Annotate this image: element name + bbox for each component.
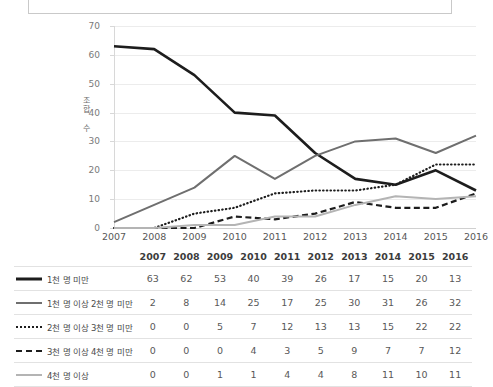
table-cell: 4 <box>237 345 271 356</box>
column-header: 2016 <box>438 251 472 262</box>
legend-label: 1천 명 미만 <box>47 273 88 285</box>
table-cell: 13 <box>438 273 472 284</box>
table-cell: 20 <box>405 273 439 284</box>
table-cell: 12 <box>438 345 472 356</box>
x-tick-label: 2011 <box>255 231 295 242</box>
table-cell: 11 <box>438 369 472 380</box>
table-cell: 30 <box>338 297 372 308</box>
column-header: 2011 <box>270 251 304 262</box>
table-row: 4천 명 이상0011448111011 <box>14 362 472 387</box>
legend-line-icon <box>16 370 42 380</box>
table-cell: 62 <box>170 273 204 284</box>
line-chart: 조합 수 010203040506070 <box>0 0 485 240</box>
legend-item: 1천 명 이상 2천 명 미만 <box>14 297 136 309</box>
x-tick-label: 2014 <box>376 231 416 242</box>
legend-label: 3천 명 이상 4천 명 미만 <box>47 345 132 357</box>
x-tick-label: 2010 <box>215 231 255 242</box>
table-cell: 7 <box>405 345 439 356</box>
legend-label: 2천 명 이상 3천 명 미만 <box>47 321 132 333</box>
table-cell: 5 <box>203 321 237 332</box>
x-axis-labels: 2007200820092010201120122013201420152016 <box>0 231 485 247</box>
table-cell: 17 <box>338 273 372 284</box>
table-cell: 15 <box>371 321 405 332</box>
x-tick-label: 2008 <box>134 231 174 242</box>
table-header-row: 2007200820092010201120122013201420152016 <box>14 247 472 266</box>
legend-label: 1천 명 이상 2천 명 미만 <box>47 297 132 309</box>
data-table: 2007200820092010201120122013201420152016… <box>14 247 472 387</box>
table-cell: 12 <box>270 321 304 332</box>
table-cell: 8 <box>170 297 204 308</box>
table-cell: 8 <box>338 369 372 380</box>
table-cell: 22 <box>405 321 439 332</box>
legend-item: 1천 명 미만 <box>14 273 136 285</box>
table-row: 2천 명 이상 3천 명 미만0057121313152222 <box>14 314 472 338</box>
table-cell: 1 <box>237 369 271 380</box>
table-row: 1천 명 이상 2천 명 미만281425172530312632 <box>14 290 472 314</box>
table-cell: 14 <box>203 297 237 308</box>
column-header: 2007 <box>136 251 170 262</box>
legend-line-icon <box>16 346 42 356</box>
table-cell: 2 <box>136 297 170 308</box>
table-cell: 5 <box>304 345 338 356</box>
x-tick-label: 2012 <box>295 231 335 242</box>
legend-label: 4천 명 이상 <box>47 369 88 381</box>
column-header: 2015 <box>405 251 439 262</box>
legend-item: 4천 명 이상 <box>14 369 136 381</box>
table-cell: 15 <box>371 273 405 284</box>
table-cell: 0 <box>136 369 170 380</box>
table-cell: 25 <box>304 297 338 308</box>
series-line <box>114 136 476 223</box>
table-cell: 11 <box>371 369 405 380</box>
table-cell: 26 <box>304 273 338 284</box>
table-cell: 4 <box>270 369 304 380</box>
table-cell: 13 <box>338 321 372 332</box>
x-tick-label: 2016 <box>456 231 493 242</box>
table-cell: 9 <box>338 345 372 356</box>
table-cell: 4 <box>304 369 338 380</box>
table-cell: 25 <box>237 297 271 308</box>
table-cell: 7 <box>237 321 271 332</box>
table-cell: 39 <box>270 273 304 284</box>
table-cell: 0 <box>170 345 204 356</box>
table-cell: 0 <box>136 321 170 332</box>
table-cell: 13 <box>304 321 338 332</box>
table-cell: 7 <box>371 345 405 356</box>
column-header: 2009 <box>203 251 237 262</box>
column-header: 2008 <box>170 251 204 262</box>
column-header: 2012 <box>304 251 338 262</box>
legend-line-icon <box>16 322 42 332</box>
x-tick-label: 2013 <box>335 231 375 242</box>
x-tick-label: 2015 <box>416 231 456 242</box>
table-cell: 32 <box>438 297 472 308</box>
legend-line-icon <box>16 274 42 284</box>
table-cell: 3 <box>270 345 304 356</box>
table-cell: 0 <box>170 321 204 332</box>
table-cell: 40 <box>237 273 271 284</box>
table-cell: 0 <box>136 345 170 356</box>
column-header: 2014 <box>371 251 405 262</box>
legend-item: 2천 명 이상 3천 명 미만 <box>14 321 136 333</box>
table-cell: 1 <box>203 369 237 380</box>
x-tick-label: 2007 <box>94 231 134 242</box>
table-cell: 31 <box>371 297 405 308</box>
legend-item: 3천 명 이상 4천 명 미만 <box>14 345 136 357</box>
table-cell: 10 <box>405 369 439 380</box>
legend-line-icon <box>16 298 42 308</box>
column-header: 2013 <box>338 251 372 262</box>
table-cell: 0 <box>170 369 204 380</box>
table-cell: 17 <box>270 297 304 308</box>
x-tick-label: 2009 <box>174 231 214 242</box>
table-cell: 63 <box>136 273 170 284</box>
series-lines <box>0 0 485 240</box>
table-row: 1천 명 미만63625340392617152013 <box>14 266 472 290</box>
table-row: 3천 명 이상 4천 명 미만00043597712 <box>14 338 472 362</box>
table-cell: 22 <box>438 321 472 332</box>
table-cell: 0 <box>203 345 237 356</box>
table-cell: 53 <box>203 273 237 284</box>
table-cell: 26 <box>405 297 439 308</box>
column-header: 2010 <box>237 251 271 262</box>
series-line <box>114 46 476 190</box>
